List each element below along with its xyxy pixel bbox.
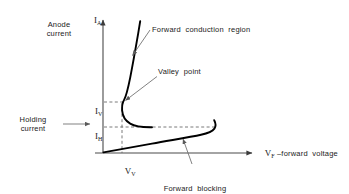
valley-current-subscript: V [98, 111, 102, 117]
holding-current-label: Holdingcurrent [4, 115, 62, 133]
valley-voltage-subscript: V [131, 171, 135, 177]
forward-blocking-leader [183, 139, 192, 164]
forward-blocking-region-label: Forward blocking region [145, 166, 245, 194]
forward-conduction-region-text: Forward conduction region [152, 25, 250, 34]
y-axis-symbol-subscript: A [97, 20, 101, 26]
holding-current-subscript: H [98, 136, 102, 142]
anode-current-label: Anodecurrent [30, 20, 88, 38]
valley-voltage-axis-label: VV [116, 156, 136, 186]
x-axis-label-subscript: F [271, 153, 274, 159]
forward-conduction-region-label: Forward conduction region [152, 25, 250, 34]
valley-point-label: Valley point [158, 67, 201, 76]
forward-conduction-curve [122, 21, 152, 127]
holding-current-axis-label: IH [86, 121, 102, 151]
thyristor-vi-characteristic-figure: IA Anodecurrent Holdingcurrent IV IH VV … [0, 0, 349, 194]
x-axis-label: VF –forward voltage [256, 138, 338, 168]
valley-point-text: Valley point [158, 67, 201, 76]
forward-blocking-curve [104, 120, 216, 152]
anode-current-label-text: Anodecurrent [47, 20, 72, 38]
forward-conduction-leader [133, 30, 151, 56]
x-axis-label-rest: –forward voltage [275, 149, 338, 158]
forward-blocking-region-line1: Forward blocking [145, 184, 245, 193]
holding-current-label-text: Holdingcurrent [20, 115, 47, 133]
